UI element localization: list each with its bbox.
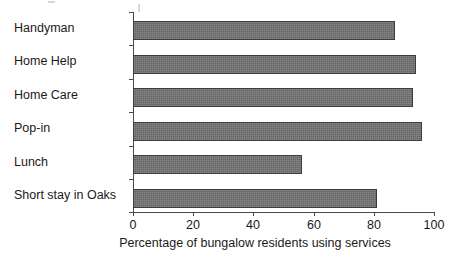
x-axis-tick — [193, 212, 194, 216]
bar-short-stay-in-oaks — [133, 189, 377, 208]
x-axis-tick — [133, 212, 134, 216]
x-axis-title: Percentage of bungalow residents using s… — [0, 236, 460, 251]
x-axis-tick-label: 0 — [130, 218, 137, 232]
plot-area: 0 20 40 60 80 100 — [133, 12, 434, 212]
y-axis-tick — [129, 179, 133, 180]
x-axis-tick-label: 100 — [424, 218, 445, 232]
x-axis-tick — [314, 212, 315, 216]
scan-artifact — [138, 4, 140, 12]
x-axis-tick — [434, 212, 435, 216]
category-label-home-care: Home Care — [14, 88, 78, 103]
bar-pop-in — [133, 122, 422, 141]
bar-chart: Handyman Home Help Home Care Pop-in Lunc… — [0, 0, 460, 264]
x-axis-tick-label: 60 — [307, 218, 321, 232]
y-axis-tick — [129, 146, 133, 147]
y-axis-line — [133, 12, 134, 212]
x-axis-tick-label: 40 — [246, 218, 260, 232]
category-label-lunch: Lunch — [14, 155, 48, 170]
x-axis-tick-label: 80 — [367, 218, 381, 232]
category-label-short-stay-in-oaks: Short stay in Oaks — [14, 188, 116, 203]
category-label-home-help: Home Help — [14, 54, 77, 69]
y-axis-tick — [129, 12, 133, 13]
x-axis-line — [133, 212, 434, 213]
category-label-handyman: Handyman — [14, 21, 74, 36]
y-axis-tick — [129, 112, 133, 113]
category-label-pop-in: Pop-in — [14, 121, 50, 136]
scan-artifact — [48, 1, 55, 3]
bar-lunch — [133, 155, 302, 174]
bar-home-help — [133, 55, 416, 74]
x-axis-tick — [374, 212, 375, 216]
bar-home-care — [133, 88, 413, 107]
bar-handyman — [133, 21, 395, 40]
x-axis-tick — [253, 212, 254, 216]
x-axis-tick-label: 20 — [186, 218, 200, 232]
y-axis-tick — [129, 79, 133, 80]
x-axis-title-text: Percentage of bungalow residents using s… — [119, 236, 391, 250]
y-axis-tick — [129, 45, 133, 46]
